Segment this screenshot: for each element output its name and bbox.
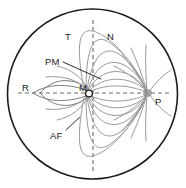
label-t: T — [65, 32, 71, 42]
label-m: M — [79, 83, 87, 93]
figure-container: T N PM R M P AF — [0, 0, 186, 188]
label-n: N — [107, 32, 114, 42]
field-curves-radial-from-p — [114, 45, 171, 141]
focal-point-p-marker — [143, 89, 152, 97]
label-p: P — [155, 97, 162, 107]
af-leader-line — [66, 117, 80, 130]
label-af: AF — [50, 131, 63, 141]
label-pm: PM — [45, 57, 60, 67]
schematic-diagram-svg — [0, 0, 186, 188]
label-r: R — [22, 83, 29, 93]
